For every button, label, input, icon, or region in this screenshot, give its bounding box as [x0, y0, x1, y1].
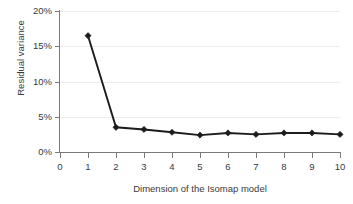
data-point-x3 — [141, 126, 147, 132]
residual-variance-line — [88, 36, 340, 135]
data-point-x7 — [253, 131, 259, 137]
data-series-layer — [0, 0, 353, 204]
data-point-x9 — [309, 130, 315, 136]
data-point-x5 — [197, 132, 203, 138]
data-point-x2 — [113, 124, 119, 130]
data-point-x1 — [85, 33, 91, 39]
x-axis-title: Dimension of the Isomap model — [60, 183, 340, 195]
data-point-x4 — [169, 129, 175, 135]
data-point-x8 — [281, 130, 287, 136]
data-point-x10 — [337, 131, 343, 137]
data-point-x6 — [225, 130, 231, 136]
residual-variance-chart: Residual variance 0%5%10%15%20% 01234567… — [0, 0, 353, 204]
residual-variance-markers — [85, 33, 343, 139]
